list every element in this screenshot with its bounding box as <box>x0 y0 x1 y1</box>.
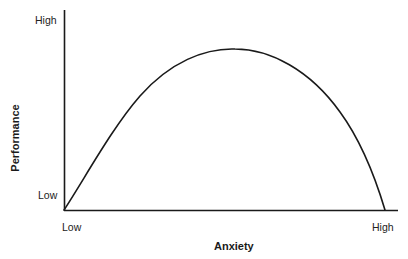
y-axis-title: Performance <box>9 103 21 173</box>
anxiety-performance-chart: High Low Low High Anxiety Performance <box>0 0 408 259</box>
y-tick-low: Low <box>38 189 57 201</box>
x-tick-high: High <box>372 221 394 233</box>
y-tick-high: High <box>35 14 57 26</box>
x-tick-low: Low <box>62 221 81 233</box>
performance-curve <box>64 49 385 210</box>
x-axis-title: Anxiety <box>214 240 254 252</box>
